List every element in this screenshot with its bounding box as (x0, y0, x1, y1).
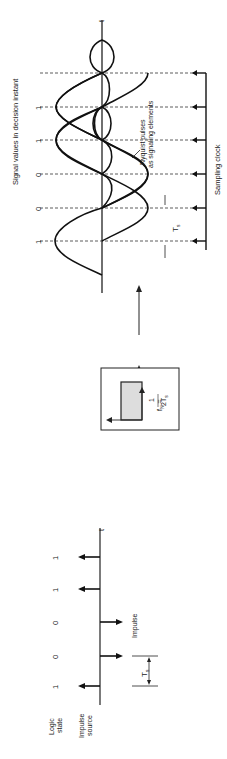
svg-text:0: 0 (51, 621, 60, 625)
svg-text:1: 1 (34, 139, 43, 143)
logic-state-label-2: state (56, 718, 63, 733)
impulse-source-label-2: source (86, 715, 93, 736)
nyquist-label-line2: as signaling elements (147, 100, 155, 168)
svg-text:0: 0 (34, 173, 43, 177)
impulse-label: Impulse (131, 613, 139, 638)
logic-state-label-1: Logic (48, 718, 56, 735)
signal-values: 1 0 0 1 1 (34, 106, 43, 244)
filter-block: fN = 1 2Ts (101, 285, 179, 430)
svg-text:0: 0 (34, 207, 43, 211)
svg-text:1: 1 (51, 588, 60, 592)
impulse-source-plot: t (78, 528, 123, 705)
impulse-source-label-1: Impulse (78, 713, 86, 738)
nyquist-pulse-plot: t (40, 20, 195, 293)
svg-text:0: 0 (51, 655, 60, 659)
svg-text:1: 1 (34, 240, 43, 244)
svg-text:1: 1 (148, 398, 155, 402)
sampling-clock (193, 73, 206, 250)
nyquist-diagram: t Signal values in decision instant 1 0 … (0, 0, 227, 759)
ts-label-top: Ts (171, 224, 181, 232)
time-axis-label: t (98, 20, 105, 22)
svg-text:1: 1 (34, 106, 43, 110)
svg-text:1: 1 (51, 685, 60, 689)
logic-states: 1 0 0 1 1 (51, 556, 60, 689)
svg-text:t: t (98, 529, 105, 531)
svg-text:1: 1 (51, 556, 60, 560)
signal-values-title: Signal values in decision instant (11, 78, 20, 185)
nyquist-label-line1: Nyquist pulses (139, 119, 147, 165)
sampling-clock-label: Sampling clock (213, 144, 222, 195)
ts-label-bottom: Ts (140, 669, 150, 677)
